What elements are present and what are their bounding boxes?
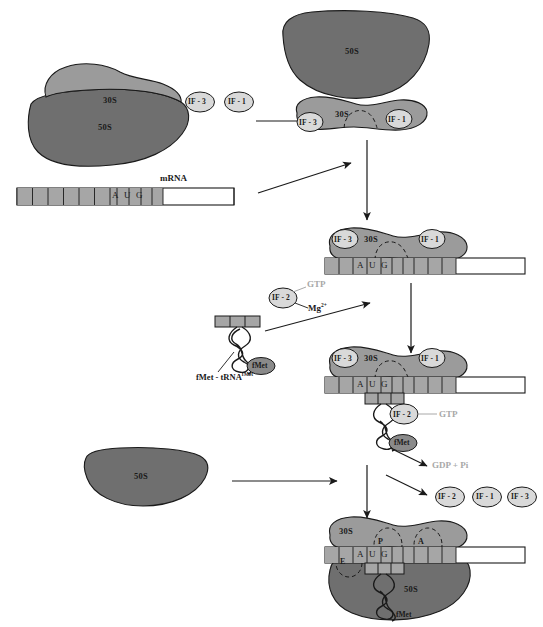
stage6-50s-label: 50S bbox=[404, 585, 418, 594]
if3-label-stage3: IF - 3 bbox=[334, 236, 352, 244]
stage6-codon-g: G bbox=[381, 550, 388, 559]
stage2-free-50s-label: 50S bbox=[345, 47, 359, 56]
trna-ribbon bbox=[229, 327, 249, 372]
if1-label-stage4: IF - 1 bbox=[421, 355, 439, 363]
stage3-30s-label: 30S bbox=[364, 235, 378, 244]
trna-acceptor-blocks bbox=[215, 316, 260, 327]
if1-label-released: IF - 1 bbox=[476, 493, 494, 501]
e-site-label: E bbox=[340, 558, 345, 566]
arrow-mrna-binding bbox=[258, 163, 351, 193]
diagram-canvas bbox=[0, 0, 543, 627]
mg-label-input: Mg2+ bbox=[308, 303, 327, 313]
if3-label-stage4: IF - 3 bbox=[334, 355, 352, 363]
if3-label-released: IF - 3 bbox=[511, 493, 529, 501]
stage6-30s-label: 30S bbox=[339, 527, 353, 536]
mg-symbol: Mg bbox=[308, 303, 321, 313]
if1-label-stage2: IF - 1 bbox=[388, 116, 406, 124]
if3-label-stage1: IF - 3 bbox=[188, 98, 206, 106]
translation-initiation-diagram: 30S 50S IF - 3 IF - 1 mRNA A U G 50S 30S… bbox=[0, 0, 543, 627]
mrna-label: mRNA bbox=[160, 174, 187, 183]
stage6-70s-initiation-complex bbox=[325, 517, 525, 621]
stage4-anticodon-blocks bbox=[365, 393, 404, 404]
fmet-trna-label: fMet - tRNAfMet bbox=[196, 372, 253, 381]
fmet-label-input: fMet bbox=[252, 362, 267, 370]
if2-label-released: IF - 2 bbox=[438, 493, 456, 501]
stage1-30s-label: 30S bbox=[103, 96, 117, 105]
trna-leader-line bbox=[218, 352, 234, 372]
if1-label-stage1: IF - 1 bbox=[228, 98, 246, 106]
stage2-30s-label: 30S bbox=[335, 110, 349, 119]
stage3-codon-u: U bbox=[369, 261, 376, 270]
if2-label-stage4: IF - 2 bbox=[393, 411, 411, 419]
stage3-codon-g: G bbox=[381, 261, 388, 270]
gtp-label-stage4: GTP bbox=[439, 410, 458, 419]
stage1-codon-g: G bbox=[136, 191, 143, 200]
stage6-codon-u: U bbox=[369, 550, 376, 559]
mg-charge: 2+ bbox=[321, 302, 327, 308]
stage1-50s-label: 50S bbox=[98, 123, 112, 132]
if2-label-input: IF - 2 bbox=[272, 294, 290, 302]
if1-label-stage3: IF - 1 bbox=[421, 236, 439, 244]
stage1-codon-a: A bbox=[112, 191, 119, 200]
if2-mg-connector bbox=[295, 303, 308, 308]
fmet-trna-name: fMet - tRNA bbox=[196, 372, 242, 382]
stage3-codon-a: A bbox=[357, 261, 364, 270]
a-site-label: A bbox=[418, 538, 424, 546]
fmet-label-stage6: fMet bbox=[396, 611, 411, 619]
if2-gtp-connector bbox=[293, 287, 306, 292]
stage6-anticodon-blocks bbox=[365, 563, 404, 574]
arrow-factor-release bbox=[386, 475, 427, 495]
fmet-trna-superscript: fMet bbox=[242, 371, 253, 377]
stage6-mrna-strip bbox=[325, 547, 525, 563]
stage1-codon-u: U bbox=[124, 191, 131, 200]
stage1-70s-ribosome bbox=[28, 64, 188, 166]
stage4-mrna-strip bbox=[325, 377, 525, 393]
p-site-label: P bbox=[378, 538, 383, 546]
stage4-codon-g: G bbox=[381, 380, 388, 389]
stage3-mrna-strip bbox=[325, 258, 525, 274]
stage6-codon-a: A bbox=[357, 550, 364, 559]
if3-label-stage2: IF - 3 bbox=[299, 119, 317, 127]
stage4-codon-a: A bbox=[357, 380, 364, 389]
stage4-codon-u: U bbox=[369, 380, 376, 389]
stage5-free-50s-label: 50S bbox=[134, 472, 148, 481]
gdp-pi-label: GDP + Pi bbox=[432, 461, 468, 470]
fmet-label-stage4: fMet bbox=[394, 439, 409, 447]
gtp-label-input: GTP bbox=[307, 280, 326, 289]
stage4-30s-label: 30S bbox=[364, 354, 378, 363]
